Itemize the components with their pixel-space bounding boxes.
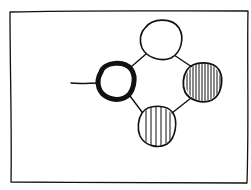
edge-bottom-start: [130, 96, 142, 112]
edge-start-top: [131, 54, 146, 67]
diagram-canvas: [0, 0, 251, 190]
node-bottom-striped[interactable]: [138, 104, 175, 148]
edge-top-right: [174, 55, 192, 67]
node-start-bold[interactable]: [98, 63, 134, 99]
node-right-striped[interactable]: [183, 60, 221, 104]
node-top[interactable]: [140, 20, 182, 59]
edge-right-bottom: [172, 98, 191, 113]
